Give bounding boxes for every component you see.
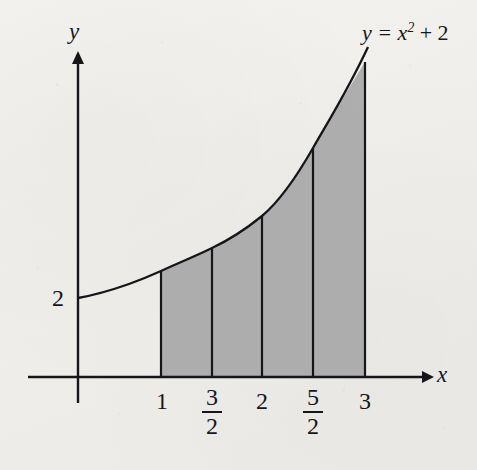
x-tick-label-5-2: 5 2 — [303, 385, 323, 439]
curve-equation-lhs: y = x — [362, 20, 407, 45]
x-tick-label-1: 1 — [154, 389, 170, 413]
y-intercept-label: 2 — [52, 286, 64, 310]
x-axis-arrowhead — [422, 371, 434, 383]
x-tick-label-3-2: 3 2 — [202, 385, 222, 439]
figure-canvas: y x 2 y = x2 + 2 1 3 2 2 5 2 3 — [0, 0, 477, 470]
y-axis-arrowhead — [72, 51, 84, 64]
curve-equation-tail: + 2 — [420, 20, 449, 45]
curve-equation-exponent: 2 — [407, 20, 414, 35]
fraction-denominator: 2 — [303, 414, 323, 438]
x-axis-label: x — [437, 363, 447, 386]
riemann-sum-plot — [0, 0, 477, 470]
x-tick-label-2: 2 — [254, 389, 270, 413]
curve-equation-label: y = x2 + 2 — [362, 22, 449, 44]
x-tick-label-3: 3 — [357, 389, 373, 413]
y-axis-label: y — [69, 20, 79, 43]
fraction-denominator: 2 — [202, 414, 222, 438]
fraction-numerator: 3 — [202, 385, 222, 409]
fraction-numerator: 5 — [303, 385, 323, 409]
